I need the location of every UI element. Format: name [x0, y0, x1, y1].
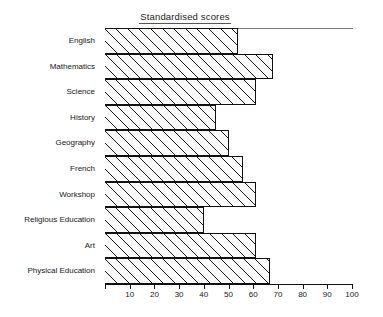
x-tick-label-10: 10 [125, 290, 134, 299]
chart-title: Standardised scores [105, 11, 265, 24]
x-tick-label-100: 100 [345, 290, 358, 299]
x-tick-label-40: 40 [199, 290, 208, 299]
x-tick-60 [253, 284, 254, 289]
x-tick-label-20: 20 [150, 290, 159, 299]
x-tick-label-30: 30 [175, 290, 184, 299]
x-tick-70 [278, 284, 279, 289]
bar-english [105, 28, 238, 54]
bar-mathematics [105, 54, 273, 80]
bar-physical-education [105, 258, 270, 284]
bar-workshop [105, 182, 256, 208]
x-tick-10 [130, 284, 131, 289]
x-tick-100 [352, 284, 353, 289]
plot-area [105, 28, 352, 284]
category-label-workshop: Workshop [59, 182, 95, 208]
bar-science [105, 79, 256, 105]
category-label-mathematics: Mathematics [50, 54, 95, 80]
bar-religious-education [105, 207, 204, 233]
x-tick-label-90: 90 [323, 290, 332, 299]
x-tick-label-50: 50 [224, 290, 233, 299]
bar-art [105, 233, 256, 259]
category-label-art: Art [85, 233, 95, 259]
bar-french [105, 156, 243, 182]
category-label-geography: Geography [55, 130, 95, 156]
x-tick-label-60: 60 [249, 290, 258, 299]
x-tick-90 [327, 284, 328, 289]
chart-title-text: Standardised scores [139, 11, 230, 24]
x-tick-30 [179, 284, 180, 289]
bar-series [105, 28, 352, 284]
category-label-physical-education: Physical Education [27, 258, 95, 284]
category-label-french: French [70, 156, 95, 182]
x-tick-50 [229, 284, 230, 289]
x-axis-ticks: 102030405060708090100 [105, 284, 353, 306]
bar-history [105, 105, 216, 131]
x-tick-20 [154, 284, 155, 289]
category-label-science: Science [67, 79, 95, 105]
bar-chart: Standardised scores EnglishMathematicsSc… [0, 0, 383, 317]
x-tick-label-70: 70 [273, 290, 282, 299]
category-label-english: English [69, 28, 95, 54]
bar-geography [105, 130, 229, 156]
x-tick-0 [105, 284, 106, 289]
x-tick-label-80: 80 [298, 290, 307, 299]
category-label-religious-education: Religious Education [24, 207, 95, 233]
x-tick-40 [204, 284, 205, 289]
category-axis-labels: EnglishMathematicsScienceHistoryGeograph… [0, 28, 101, 284]
category-label-history: History [70, 105, 95, 131]
x-tick-80 [303, 284, 304, 289]
